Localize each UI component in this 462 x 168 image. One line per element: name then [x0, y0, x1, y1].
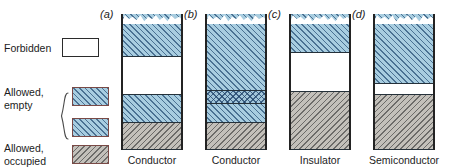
band-allowed-empty: [121, 14, 183, 56]
column-right-rail: [181, 14, 183, 150]
band-forbidden: [289, 52, 351, 91]
legend-label-allowed-occupied-line2: occupied: [4, 155, 46, 167]
legend-swatch-forbidden: [62, 38, 99, 57]
column-right-rail: [349, 14, 351, 150]
column-body: [289, 14, 351, 150]
energy-band-diagram-figure: Forbidden Allowed, empty Allowed, occupi…: [0, 0, 462, 168]
legend-key: Forbidden Allowed, empty Allowed, occupi…: [4, 30, 108, 160]
column-body: [205, 14, 267, 150]
legend-label-allowed-occupied: Allowed, occupied: [4, 142, 60, 167]
column-letter-label: (d): [352, 8, 365, 20]
band-forbidden: [121, 56, 183, 94]
column-left-rail: [289, 14, 291, 150]
band-allowed-empty: [373, 14, 435, 83]
legend-label-allowed-empty-line2: empty: [4, 99, 33, 111]
band-column-semiconductor-3: (d)Semiconductor: [373, 8, 435, 152]
legend-swatch-allowed-empty-2: [72, 118, 109, 137]
legend-label-allowed-empty-line1: Allowed,: [4, 86, 44, 98]
column-left-rail: [205, 14, 207, 150]
band-forbidden: [373, 83, 435, 94]
band-column-conductor-1: (b)Conductor: [205, 8, 267, 152]
legend-label-allowed-empty: Allowed, empty: [4, 86, 60, 111]
column-body: [121, 14, 183, 150]
band-column-conductor-0: (a)Conductor: [121, 8, 183, 152]
band-allowed-empty: [205, 103, 267, 122]
column-left-rail: [121, 14, 123, 150]
column-caption: Semiconductor: [359, 154, 449, 166]
band-allowed-occupied: [373, 94, 435, 150]
band-allowed-occupied: [289, 91, 351, 150]
column-letter-label: (a): [100, 8, 113, 20]
column-caption: Conductor: [107, 154, 197, 166]
band-allowed-occupied: [205, 122, 267, 150]
band-allowed-occupied: [121, 122, 183, 150]
legend-entry-allowed-occupied: Allowed, occupied: [4, 142, 60, 167]
column-body: [373, 14, 435, 150]
band-allowed-empty: [121, 94, 183, 122]
band-allowed-empty: [289, 14, 351, 52]
band-column-insulator-2: (c)Insulator: [289, 8, 351, 152]
legend-swatch-allowed-empty-1: [72, 87, 109, 106]
column-caption: Insulator: [275, 154, 365, 166]
column-right-rail: [265, 14, 267, 150]
column-letter-label: (c): [268, 8, 281, 20]
legend-entry-allowed-empty: Allowed, empty: [4, 86, 60, 111]
column-right-rail: [433, 14, 435, 150]
legend-swatch-allowed-occupied: [72, 145, 109, 164]
legend-label-forbidden: Forbidden: [4, 42, 62, 54]
band-allowed-empty: [205, 14, 267, 90]
legend-entry-forbidden: Forbidden: [4, 38, 99, 57]
column-left-rail: [373, 14, 375, 150]
legend-brace-icon: [60, 92, 69, 140]
column-caption: Conductor: [191, 154, 281, 166]
legend-label-allowed-occupied-line1: Allowed,: [4, 142, 44, 154]
band-overlapping-bands: [205, 90, 267, 103]
column-letter-label: (b): [184, 8, 197, 20]
